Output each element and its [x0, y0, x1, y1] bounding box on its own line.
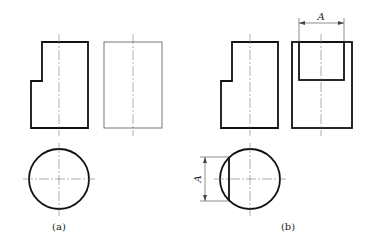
arrow-right-icon	[338, 21, 344, 25]
side-view-b	[292, 42, 352, 128]
side-view-b-cutout	[299, 42, 344, 80]
technical-drawing: (a) A A (b)	[0, 0, 386, 251]
caption-b: (b)	[281, 221, 295, 232]
front-view-b	[221, 42, 278, 128]
arrow-down-icon	[203, 195, 207, 201]
front-view-a	[31, 42, 88, 128]
panel-a: (a)	[23, 34, 162, 232]
dimension-label-left: A	[192, 175, 203, 183]
arrow-up-icon	[203, 157, 207, 163]
dimension-top-a: A	[299, 11, 344, 42]
dimension-label-top: A	[316, 11, 324, 22]
panel-b: A A (b)	[192, 11, 352, 232]
arrow-left-icon	[299, 21, 305, 25]
caption-a: (a)	[52, 221, 66, 232]
